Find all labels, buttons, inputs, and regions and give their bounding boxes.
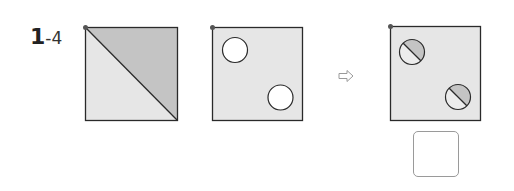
- circle-top-left: [223, 38, 248, 63]
- corner-dot: [83, 25, 88, 30]
- figure-square-split-circles: [388, 24, 481, 121]
- right-arrow-outline-icon: [339, 71, 353, 82]
- answer-box[interactable]: [413, 131, 459, 177]
- corner-dot: [388, 24, 393, 29]
- figure-square-diagonal: [83, 25, 178, 121]
- corner-dot: [210, 25, 215, 30]
- circle-bottom-right: [268, 85, 293, 110]
- figure-square-circles: [210, 25, 303, 121]
